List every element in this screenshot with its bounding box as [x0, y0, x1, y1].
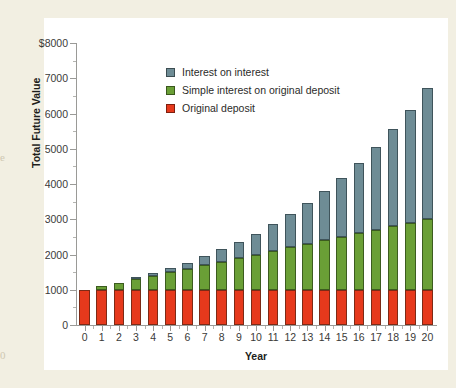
- bar-segment-interest-on-interest: [199, 256, 210, 265]
- bar-segment-original-deposit: [216, 290, 227, 325]
- x-axis-minor-tick: [145, 326, 146, 329]
- bar-segment-original-deposit: [234, 290, 245, 325]
- bar-segment-simple-interest: [199, 265, 210, 290]
- y-axis-tick-label: 2000: [18, 250, 68, 261]
- x-axis-minor-tick: [419, 326, 420, 329]
- bar-stack[interactable]: [336, 178, 347, 325]
- bar-segment-interest-on-interest: [148, 273, 159, 275]
- bar-segment-interest-on-interest: [422, 88, 433, 219]
- legend-item-label: Original deposit: [182, 103, 255, 114]
- bar-segment-simple-interest: [148, 276, 159, 290]
- x-axis-minor-tick: [402, 326, 403, 329]
- bar-segment-original-deposit: [371, 290, 382, 325]
- x-axis-minor-tick: [247, 326, 248, 329]
- bar-stack[interactable]: [319, 191, 330, 325]
- bar-segment-simple-interest: [114, 283, 125, 290]
- legend-item-label: Interest on interest: [182, 67, 269, 78]
- bar-stack[interactable]: [371, 147, 382, 325]
- chart-legend: Interest on interestSimple interest on o…: [166, 65, 340, 119]
- bar-segment-original-deposit: [165, 290, 176, 325]
- x-axis-minor-tick: [196, 326, 197, 329]
- x-axis-title: Year: [76, 350, 436, 362]
- bar-segment-interest-on-interest: [388, 129, 399, 226]
- stacked-bar-chart: 01000200030004000500060007000$8000 01234…: [44, 18, 448, 370]
- x-axis-tick-label: 20: [417, 332, 437, 343]
- bar-stack[interactable]: [251, 234, 262, 325]
- bar-segment-interest-on-interest: [234, 242, 245, 258]
- x-axis-minor-tick: [179, 326, 180, 329]
- bar-stack[interactable]: [405, 109, 416, 325]
- bar-stack[interactable]: [114, 282, 125, 325]
- y-axis-tick-label: 3000: [18, 214, 68, 225]
- bar-segment-original-deposit: [79, 290, 90, 325]
- bar-segment-interest-on-interest: [336, 178, 347, 237]
- bar-segment-simple-interest: [182, 269, 193, 290]
- bar-segment-interest-on-interest: [251, 234, 262, 255]
- bar-stack[interactable]: [79, 290, 90, 325]
- y-axis-tick-labels: 01000200030004000500060007000$8000: [12, 18, 68, 370]
- x-axis-minor-tick: [299, 326, 300, 329]
- bar-segment-interest-on-interest: [319, 191, 330, 240]
- bar-stack[interactable]: [96, 286, 107, 325]
- bar-segment-interest-on-interest: [182, 263, 193, 269]
- y-axis-tick-label: $8000: [18, 38, 68, 49]
- x-axis-minor-tick: [127, 326, 128, 329]
- y-axis-title: Total Future Value: [30, 78, 42, 168]
- bar-segment-interest-on-interest: [131, 277, 142, 279]
- bar-segment-simple-interest: [354, 233, 365, 289]
- bar-segment-interest-on-interest: [268, 224, 279, 251]
- bar-segment-original-deposit: [251, 290, 262, 325]
- cropped-page-glyph-upper: e: [0, 152, 8, 163]
- bar-stack[interactable]: [131, 278, 142, 325]
- bar-segment-interest-on-interest: [216, 249, 227, 261]
- legend-item-label: Simple interest on original deposit: [182, 85, 340, 96]
- legend-swatch-icon: [166, 86, 175, 95]
- x-axis-minor-tick: [316, 326, 317, 329]
- bar-segment-original-deposit: [336, 290, 347, 325]
- legend-item-deposit[interactable]: Original deposit: [166, 101, 340, 116]
- x-axis-minor-tick: [282, 326, 283, 329]
- bar-segment-simple-interest: [319, 240, 330, 289]
- bar-stack[interactable]: [422, 88, 433, 325]
- bar-stack[interactable]: [388, 129, 399, 325]
- y-axis-tick-label: 0: [18, 320, 68, 331]
- bar-stack[interactable]: [216, 249, 227, 325]
- x-axis-minor-tick: [385, 326, 386, 329]
- bar-segment-interest-on-interest: [371, 147, 382, 230]
- bar-stack[interactable]: [199, 256, 210, 325]
- bar-segment-original-deposit: [131, 290, 142, 325]
- x-axis-minor-tick: [265, 326, 266, 329]
- x-axis-minor-tick: [230, 326, 231, 329]
- x-axis-minor-tick: [110, 326, 111, 329]
- bar-stack[interactable]: [285, 214, 296, 325]
- bar-segment-original-deposit: [199, 290, 210, 325]
- bar-stack[interactable]: [268, 224, 279, 325]
- legend-item-simple[interactable]: Simple interest on original deposit: [166, 83, 340, 98]
- bar-segment-simple-interest: [234, 258, 245, 290]
- bar-segment-original-deposit: [182, 290, 193, 325]
- x-axis-minor-tick: [367, 326, 368, 329]
- figure-panel: 01000200030004000500060007000$8000 01234…: [44, 18, 448, 370]
- bar-stack[interactable]: [165, 268, 176, 325]
- bar-segment-simple-interest: [131, 279, 142, 290]
- bar-stack[interactable]: [148, 273, 159, 325]
- bar-segment-interest-on-interest: [405, 110, 416, 223]
- legend-item-compound[interactable]: Interest on interest: [166, 65, 340, 80]
- bar-segment-original-deposit: [285, 290, 296, 325]
- bar-stack[interactable]: [182, 263, 193, 325]
- y-axis-tick-label: 7000: [18, 73, 68, 84]
- bar-segment-interest-on-interest: [302, 203, 313, 244]
- bar-segment-simple-interest: [251, 255, 262, 290]
- bar-stack[interactable]: [354, 163, 365, 325]
- bar-segment-simple-interest: [268, 251, 279, 290]
- bar-segment-simple-interest: [302, 244, 313, 290]
- x-axis-minor-tick: [333, 326, 334, 329]
- bar-segment-original-deposit: [422, 290, 433, 325]
- bar-stack[interactable]: [234, 242, 245, 325]
- y-axis-tick: [70, 325, 76, 326]
- bar-segment-original-deposit: [148, 290, 159, 325]
- bar-segment-original-deposit: [388, 290, 399, 325]
- bar-segment-interest-on-interest: [354, 163, 365, 233]
- x-axis-minor-tick: [162, 326, 163, 329]
- bar-stack[interactable]: [302, 203, 313, 325]
